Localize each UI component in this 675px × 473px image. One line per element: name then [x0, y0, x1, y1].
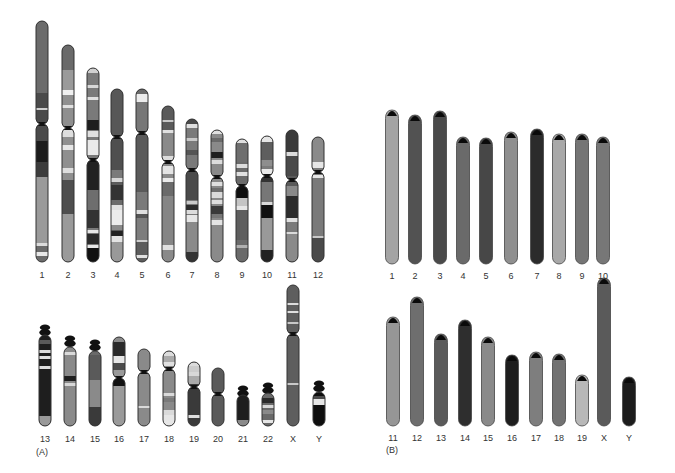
- chromosome-label-b-16: 16: [500, 433, 524, 443]
- chromosome-label-a-11: 11: [280, 270, 304, 280]
- chromosome-label-b-17: 17: [524, 433, 548, 443]
- painted-chromosome-7: [531, 129, 544, 264]
- chromosome-label-b-6: 6: [499, 271, 523, 281]
- painted-chromosome-2: [409, 115, 422, 264]
- chromosome-label-a-18: 18: [157, 434, 181, 444]
- painted-chromosome-12: [411, 297, 424, 426]
- chromosome-label-a-3: 3: [81, 270, 105, 280]
- painted-chromosome-5: [480, 138, 493, 264]
- chromosome-label-b-7: 7: [525, 271, 549, 281]
- chromosome-label-b-4: 4: [451, 271, 475, 281]
- chromosome-label-a-12: 12: [306, 270, 330, 280]
- chromosome-label-b-5: 5: [474, 271, 498, 281]
- chromosome-label-a-7: 7: [180, 270, 204, 280]
- chromosome-label-b-11: 11: [381, 433, 405, 443]
- painted-chromosome-18: [553, 354, 566, 426]
- karyotype-figure: (A) (B) 12345678910111213141516171819202…: [0, 0, 675, 473]
- chromosome-label-a-Y: Y: [307, 434, 331, 444]
- chromosome-label-a-4: 4: [105, 270, 129, 280]
- chromosome-label-b-18: 18: [547, 433, 571, 443]
- painted-chromosome-4: [457, 137, 470, 264]
- painted-chromosome-6: [505, 132, 518, 264]
- chromosome-label-b-12: 12: [405, 433, 429, 443]
- chromosome-label-b-1: 1: [380, 271, 404, 281]
- painted-chromosome-1: [386, 110, 399, 264]
- painted-chromosome-11: [387, 317, 400, 426]
- chromosome-label-a-19: 19: [182, 434, 206, 444]
- painted-chromosome-9: [576, 134, 589, 264]
- chromosome-label-b-2: 2: [403, 271, 427, 281]
- chromosome-label-b-Y: Y: [617, 433, 641, 443]
- chromosome-label-b-10: 10: [591, 271, 615, 281]
- painted-chromosome-8: [553, 134, 566, 264]
- chromosome-label-b-3: 3: [428, 271, 452, 281]
- chromosome-label-a-10: 10: [255, 270, 279, 280]
- chromosome-label-a-2: 2: [56, 270, 80, 280]
- painted-chromosome-14: [459, 320, 472, 426]
- painted-chromosome-Y: [623, 377, 636, 426]
- chromosome-label-b-13: 13: [429, 433, 453, 443]
- chromosome-label-a-13: 13: [33, 434, 57, 444]
- chromosome-label-a-8: 8: [205, 270, 229, 280]
- painted-chromosome-19: [576, 375, 589, 426]
- painted-chromosome-X: [598, 278, 611, 426]
- chromosome-label-a-20: 20: [206, 434, 230, 444]
- chromosome-label-a-X: X: [281, 434, 305, 444]
- chromosome-label-a-21: 21: [231, 434, 255, 444]
- chromosome-label-a-17: 17: [132, 434, 156, 444]
- chromosome-label-b-8: 8: [547, 271, 571, 281]
- painted-chromosome-13: [435, 334, 448, 426]
- chromosome-label-a-9: 9: [230, 270, 254, 280]
- chromosome-label-a-6: 6: [156, 270, 180, 280]
- panel-b-painted-karyotype: [0, 0, 675, 473]
- panel-a-label: (A): [36, 447, 48, 457]
- painted-chromosome-17: [530, 352, 543, 426]
- painted-chromosome-10: [597, 137, 610, 264]
- chromosome-label-b-X: X: [592, 433, 616, 443]
- painted-chromosome-15: [482, 337, 495, 426]
- panel-b-label: (B): [386, 445, 398, 455]
- painted-chromosome-16: [506, 355, 519, 426]
- chromosome-label-a-16: 16: [107, 434, 131, 444]
- chromosome-label-a-14: 14: [58, 434, 82, 444]
- painted-chromosome-3: [434, 111, 447, 264]
- chromosome-label-b-15: 15: [476, 433, 500, 443]
- chromosome-label-b-19: 19: [570, 433, 594, 443]
- chromosome-label-b-14: 14: [453, 433, 477, 443]
- chromosome-label-a-22: 22: [256, 434, 280, 444]
- chromosome-label-a-5: 5: [130, 270, 154, 280]
- chromosome-label-a-1: 1: [30, 270, 54, 280]
- chromosome-label-a-15: 15: [83, 434, 107, 444]
